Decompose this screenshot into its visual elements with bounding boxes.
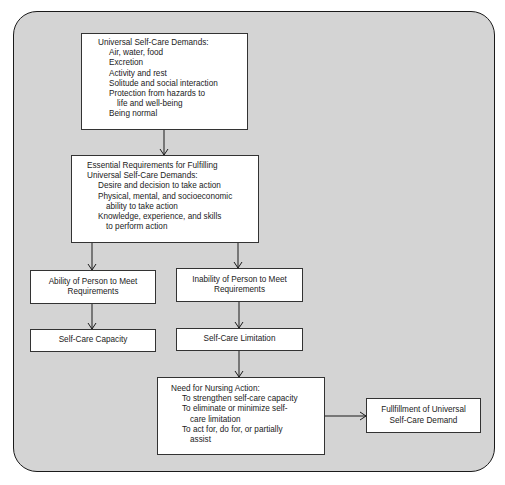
self-care-capacity-box: Self-Care Capacity — [30, 329, 156, 352]
universal-demands-title: Universal Self-Care Demands: — [98, 38, 247, 48]
ability-line1: Ability of Person to Meet — [49, 277, 138, 287]
demand-item: Solitude and social interaction — [98, 79, 247, 89]
self-care-limitation-box: Self-Care Limitation — [176, 328, 303, 351]
inability-line1: Inability of Person to Meet — [192, 275, 287, 285]
requirement-item: Desire and decision to take action — [87, 181, 258, 191]
demand-item: Protection from hazards to — [98, 89, 247, 99]
requirement-item: Physical, mental, and socioeconomic — [87, 192, 258, 202]
essential-requirements-box: Essential Requirements for Fulfilling Un… — [71, 155, 259, 243]
nursing-item-continuation: care limitation — [171, 415, 324, 425]
demand-item: Being normal — [98, 109, 247, 119]
fulfillment-box: Fullfillment of Universal Self-Care Dema… — [366, 398, 481, 433]
nursing-action-box: Need for Nursing Action: To strengthen s… — [157, 377, 325, 455]
nursing-action-title: Need for Nursing Action: — [171, 384, 324, 394]
ability-box: Ability of Person to Meet Requirements — [30, 270, 156, 304]
nursing-item: To eliminate or minimize self- — [171, 404, 324, 414]
ability-line2: Requirements — [68, 287, 119, 297]
essential-title-line1: Essential Requirements for Fulfilling — [87, 161, 258, 171]
requirement-item: Knowledge, experience, and skills — [87, 212, 258, 222]
inability-box: Inability of Person to Meet Requirements — [176, 268, 303, 302]
capacity-label: Self-Care Capacity — [59, 335, 128, 345]
nursing-item: To strengthen self-care capacity — [171, 394, 324, 404]
fulfillment-line1: Fullfillment of Universal — [381, 405, 466, 415]
fulfillment-line2: Self-Care Demand — [390, 416, 458, 426]
inability-line2: Requirements — [214, 285, 265, 295]
universal-demands-box: Universal Self-Care Demands: Air, water,… — [81, 33, 248, 130]
demand-item: Air, water, food — [98, 48, 247, 58]
requirement-item-continuation: to perform action — [87, 222, 258, 232]
requirement-item-continuation: ability to take action — [87, 202, 258, 212]
demand-item-continuation: life and well-being — [98, 99, 247, 109]
nursing-item-continuation: assist — [171, 435, 324, 445]
limitation-label: Self-Care Limitation — [204, 334, 276, 344]
nursing-item: To act for, do for, or partially — [171, 425, 324, 435]
essential-title-line2: Universal Self-Care Demands: — [87, 171, 258, 181]
demand-item: Activity and rest — [98, 69, 247, 79]
demand-item: Excretion — [98, 58, 247, 68]
